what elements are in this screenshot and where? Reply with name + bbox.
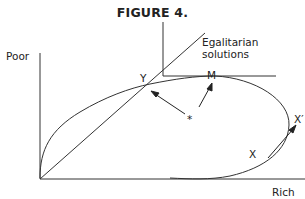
point-m-label: M (207, 69, 216, 81)
x-axis-label: Rich (272, 186, 295, 198)
point-y-label: Y (140, 72, 146, 84)
egalitarian-label: Egalitarian solutions (202, 36, 305, 60)
utility-frontier-curve (40, 76, 289, 179)
arrow-to-y (155, 94, 185, 114)
arrow-head-icon (207, 83, 212, 91)
point-x-label: X (249, 148, 256, 160)
arrow-x-to-xprime (268, 128, 294, 158)
y-axis-label: Poor (6, 50, 29, 62)
star-label: * (187, 113, 192, 125)
egalitarian-line (40, 33, 205, 179)
diagram-canvas (0, 0, 305, 199)
point-xprime-label: X′ (294, 113, 304, 125)
